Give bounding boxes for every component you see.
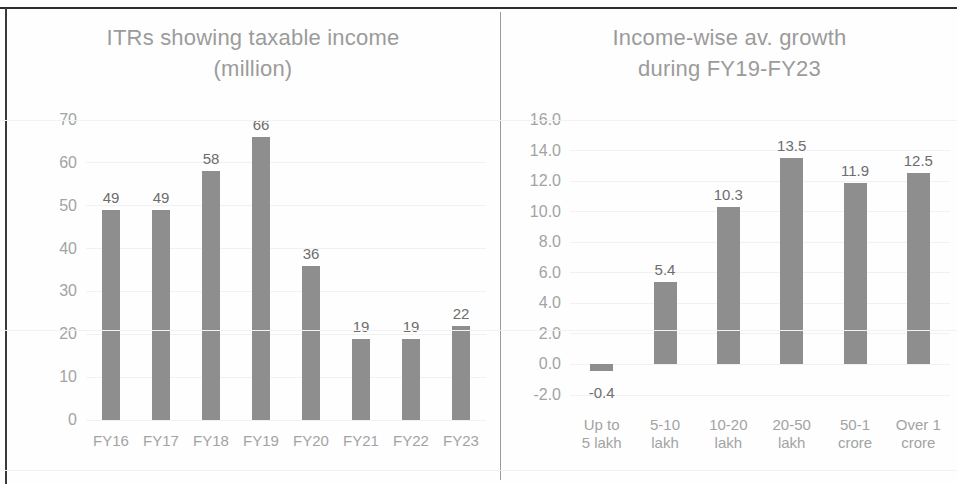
- scanned-page: ITRs showing taxable income (million) 01…: [0, 0, 957, 484]
- y-axis-tick-label: 10.0: [530, 204, 561, 220]
- y-axis-tick-label: 60: [59, 155, 77, 171]
- y-axis-tick-label: 2.0: [539, 326, 561, 342]
- y-axis-tick-label: 4.0: [539, 295, 561, 311]
- page-left-border: [5, 8, 7, 484]
- x-axis-category-label: FY17: [136, 432, 186, 450]
- bar: [352, 339, 370, 420]
- bar: [717, 207, 740, 364]
- bar: [654, 282, 677, 365]
- plot-area-growth: -2.00.02.04.06.08.010.012.014.016.0-0.4U…: [570, 120, 950, 395]
- x-axis-category-label: 50-1 crore: [823, 416, 886, 452]
- gridline: [570, 333, 950, 334]
- bar: [252, 137, 270, 420]
- bar-data-label: -0.4: [570, 385, 633, 400]
- x-axis-category-label: FY21: [336, 432, 386, 450]
- x-axis-category-label: 5-10 lakh: [633, 416, 696, 452]
- bar-data-label: 19: [336, 319, 386, 334]
- x-axis-category-label: 20-50 lakh: [760, 416, 823, 452]
- y-axis-tick-label: 8.0: [539, 234, 561, 250]
- y-axis-tick-label: 20: [59, 326, 77, 342]
- chart-title-growth: Income-wise av. growth during FY19-FY23: [502, 22, 957, 84]
- bar-data-label: 66: [236, 117, 286, 132]
- gridline: [570, 272, 950, 273]
- gridline: [570, 364, 950, 365]
- bar: [780, 158, 803, 364]
- y-axis-tick-label: 6.0: [539, 265, 561, 281]
- gridline: [86, 420, 486, 421]
- gridline: [86, 291, 486, 292]
- bar: [152, 210, 170, 420]
- gridline: [86, 205, 486, 206]
- y-axis-tick-label: -2.0: [533, 387, 561, 403]
- bar-data-label: 19: [386, 319, 436, 334]
- gridline: [570, 242, 950, 243]
- y-axis-tick-label: 0: [68, 412, 77, 428]
- bar-data-label: 49: [136, 190, 186, 205]
- y-axis-tick-label: 30: [59, 283, 77, 299]
- bar: [302, 266, 320, 420]
- plot-area-itrs: 01020304050607049FY1649FY1758FY1866FY193…: [86, 120, 486, 420]
- x-axis-category-label: Up to 5 lakh: [570, 416, 633, 452]
- chart-title-itrs: ITRs showing taxable income (million): [8, 22, 498, 84]
- gridline: [86, 120, 486, 121]
- gridline: [570, 120, 950, 121]
- bar-data-label: 58: [186, 151, 236, 166]
- bar: [202, 171, 220, 420]
- y-axis-tick-label: 40: [59, 241, 77, 257]
- bar-data-label: 11.9: [823, 163, 886, 178]
- y-axis-tick-label: 12.0: [530, 173, 561, 189]
- bar-data-label: 12.5: [887, 153, 950, 168]
- bar-data-label: 49: [86, 190, 136, 205]
- chart-panel-itrs: ITRs showing taxable income (million) 01…: [8, 0, 498, 484]
- bar: [844, 183, 867, 365]
- y-axis-tick-label: 10: [59, 369, 77, 385]
- bar-data-label: 13.5: [760, 138, 823, 153]
- bar: [452, 326, 470, 420]
- gridline: [570, 181, 950, 182]
- bar: [590, 364, 613, 370]
- x-axis-category-label: FY16: [86, 432, 136, 450]
- y-axis-tick-label: 14.0: [530, 143, 561, 159]
- bar: [907, 173, 930, 364]
- bar-data-label: 10.3: [697, 187, 760, 202]
- gridline: [86, 377, 486, 378]
- y-axis-tick-label: 70: [59, 112, 77, 128]
- chart-panel-growth: Income-wise av. growth during FY19-FY23 …: [502, 0, 957, 484]
- x-axis-category-label: FY22: [386, 432, 436, 450]
- bar: [102, 210, 120, 420]
- bar-data-label: 22: [436, 306, 486, 321]
- x-axis-category-label: Over 1 crore: [887, 416, 950, 452]
- gridline: [86, 334, 486, 335]
- gridline: [570, 303, 950, 304]
- y-axis-tick-label: 0.0: [539, 356, 561, 372]
- bar: [402, 339, 420, 420]
- x-axis-category-label: FY18: [186, 432, 236, 450]
- bar-data-label: 36: [286, 246, 336, 261]
- gridline: [86, 162, 486, 163]
- gridline: [570, 211, 950, 212]
- x-axis-category-label: FY19: [236, 432, 286, 450]
- x-axis-category-label: 10-20 lakh: [697, 416, 760, 452]
- panel-divider: [500, 12, 501, 480]
- bar-data-label: 5.4: [633, 262, 696, 277]
- y-axis-tick-label: 16.0: [530, 112, 561, 128]
- x-axis-category-label: FY23: [436, 432, 486, 450]
- y-axis-tick-label: 50: [59, 198, 77, 214]
- x-axis-category-label: FY20: [286, 432, 336, 450]
